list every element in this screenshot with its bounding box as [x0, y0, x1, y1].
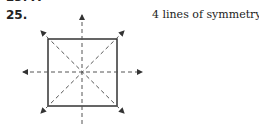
- square-symmetry-figure: [0, 0, 259, 124]
